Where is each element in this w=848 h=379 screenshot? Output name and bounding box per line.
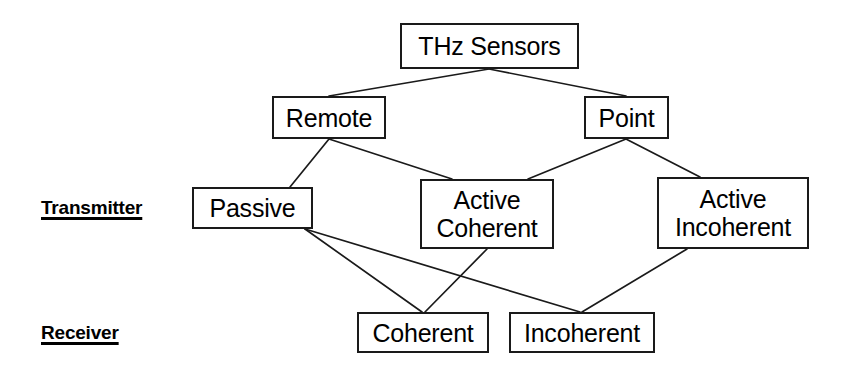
node-thz-sensors[interactable]: THz Sensors [400,23,579,69]
node-active-coherent-label-line2: Coherent [436,214,537,242]
node-passive[interactable]: Passive [192,187,313,229]
edge-thz-sensors-to-remote [329,69,489,96]
node-coherent-label: Coherent [372,319,473,347]
node-active-incoherent-label-line2: Incoherent [675,213,791,241]
node-coherent[interactable]: Coherent [357,312,489,353]
edge-point-to-active-incoherent [626,139,700,177]
row-label-transmitter: Transmitter [41,197,142,219]
node-passive-label: Passive [209,194,295,222]
edge-remote-to-passive [290,139,329,187]
node-remote-label: Remote [286,104,372,132]
node-incoherent-label: Incoherent [524,319,640,347]
edge-passive-to-coherent [305,229,422,312]
edge-remote-to-active-coherent [329,139,452,179]
edge-point-to-active-coherent [528,139,626,179]
edge-thz-sensors-to-point [489,69,626,96]
node-remote[interactable]: Remote [272,96,386,139]
diagram-canvas: THz Sensors Remote Point Passive Active … [0,0,848,379]
node-point[interactable]: Point [584,96,669,139]
node-active-coherent[interactable]: Active Coherent [420,179,554,249]
node-point-label: Point [599,104,655,132]
row-label-receiver: Receiver [41,322,119,344]
node-active-incoherent-label-line1: Active [700,185,767,213]
node-thz-sensors-label: THz Sensors [418,32,560,60]
node-active-coherent-label-line1: Active [454,186,521,214]
node-incoherent[interactable]: Incoherent [509,312,655,353]
edge-active-incoherent-to-incoherent [582,249,687,312]
node-active-incoherent[interactable]: Active Incoherent [657,177,809,249]
